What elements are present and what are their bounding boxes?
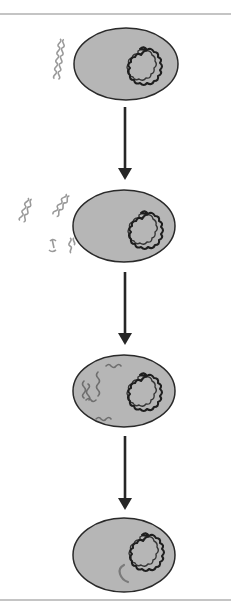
arrow-3-down-icon	[118, 436, 132, 510]
arrow-2-down-icon	[118, 272, 132, 345]
arrow-1-down-icon	[118, 107, 132, 180]
stage-4-cell	[73, 518, 175, 592]
stage-1-cell	[74, 28, 178, 100]
stage-2-cell	[73, 190, 175, 262]
stage-3-cell	[73, 355, 175, 427]
stage-2-foreign-dna-fragments	[19, 193, 75, 253]
stage-1-foreign-dna-helix	[52, 39, 65, 91]
transformation-diagram	[0, 0, 231, 607]
